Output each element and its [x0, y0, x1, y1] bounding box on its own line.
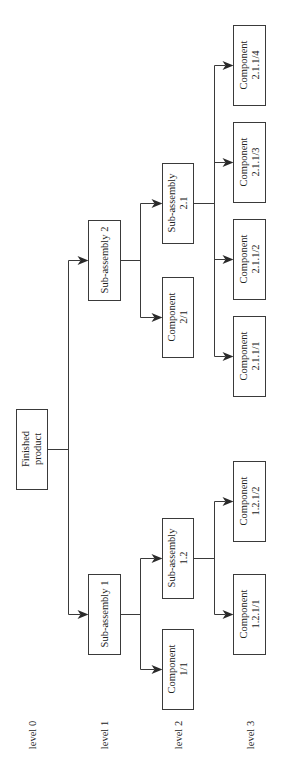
node-sa2_1: Sub-assembly2.1 [163, 164, 194, 244]
level-label-1: level 1 [99, 721, 110, 749]
node-label: 2.1 [178, 196, 189, 209]
node-label: Sub-assembly [166, 173, 177, 233]
node-label: 2/1 [178, 310, 189, 323]
node-label: Component [166, 644, 177, 693]
edge-group-sa1_2 [194, 497, 234, 619]
edge-group-sa1 [121, 554, 163, 674]
node-label: Sub-assembly 2 [99, 227, 110, 294]
level-label-0: level 0 [27, 721, 38, 749]
edge-group-sa2_1 [194, 61, 234, 361]
node-label: Finished [20, 430, 31, 467]
node-c2_1_1_1: Component2.1.1/1 [234, 317, 266, 397]
node-label: Component [166, 292, 177, 341]
node-c2_1_1_2: Component2.1.1/2 [234, 220, 266, 300]
level-label-3: level 3 [245, 721, 256, 749]
node-label: Component [238, 234, 249, 283]
node-label: 2.1.1/3 [250, 147, 261, 176]
node-label: Component [238, 476, 249, 525]
node-label: 2.1.1/4 [250, 50, 261, 80]
node-label: 1.2 [178, 551, 189, 564]
node-label: Sub-assembly 1 [99, 581, 110, 648]
node-sa1_2: Sub-assembly1.2 [163, 519, 194, 599]
node-label: Sub-assembly [166, 528, 177, 588]
node-c1_2_1_1: Component1.2.1/1 [234, 575, 266, 655]
node-label: 2.1.1/1 [250, 341, 261, 370]
node-sa2: Sub-assembly 2 [89, 221, 121, 301]
node-c2_1: Component2/1 [163, 278, 194, 358]
node-c1_2_1_2: Component1.2.1/2 [234, 462, 266, 542]
edges-layer [48, 61, 234, 674]
edge-group-fp [48, 256, 89, 619]
node-label: product [32, 433, 43, 465]
level-labels: level 0level 1level 2level 3 [27, 721, 256, 749]
node-label: 2.1.1/2 [250, 244, 261, 273]
node-label: Component [238, 331, 249, 380]
node-c1_1: Component1/1 [163, 630, 194, 710]
node-label: Component [238, 589, 249, 638]
node-label: 1.2.1/2 [250, 486, 261, 515]
node-c2_1_1_3: Component2.1.1/3 [234, 123, 266, 203]
node-sa1: Sub-assembly 1 [89, 575, 121, 655]
node-label: Component [238, 137, 249, 186]
node-c2_1_1_4: Component2.1.1/4 [234, 26, 266, 106]
node-label: Component [238, 40, 249, 89]
product-structure-diagram: FinishedproductSub-assembly 1Sub-assembl… [0, 0, 282, 782]
node-label: 1/1 [178, 662, 189, 675]
level-label-2: level 2 [173, 721, 184, 749]
node-fp: Finishedproduct [17, 410, 48, 490]
edge-group-sa2 [121, 199, 163, 322]
node-label: 1.2.1/1 [250, 599, 261, 628]
